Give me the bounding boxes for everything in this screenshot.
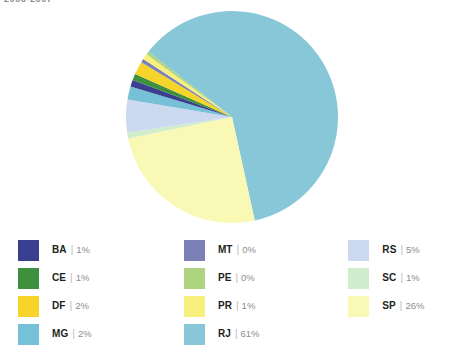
legend-code-ba: BA: [52, 244, 67, 255]
legend-percent-ce: 1%: [76, 272, 90, 283]
legend-item-mt[interactable]: MT|0%: [184, 236, 347, 264]
legend-percent-mg: 2%: [78, 328, 92, 339]
legend-percent-pe: 0%: [241, 272, 255, 283]
chart-page: 2006-2007 BA|1% CE|1% DF|2%: [0, 0, 464, 356]
legend-code-ce: CE: [52, 272, 66, 283]
legend-separator-ba: |: [71, 244, 74, 255]
legend-label-sp: SP|26%: [382, 301, 424, 311]
legend-swatch-pe: [184, 268, 205, 289]
legend-item-rs[interactable]: RS|5%: [348, 236, 464, 264]
legend-percent-rj: 61%: [240, 328, 259, 339]
legend-item-df[interactable]: DF|2%: [18, 292, 165, 320]
legend-swatch-ba: [18, 240, 39, 261]
legend-label-sc: SC|1%: [382, 273, 419, 283]
legend-item-pe[interactable]: PE|0%: [184, 264, 347, 292]
legend-separator-mg: |: [72, 328, 75, 339]
legend-code-sc: SC: [382, 272, 396, 283]
legend-label-rs: RS|5%: [382, 245, 419, 255]
legend-code-mt: MT: [218, 244, 233, 255]
legend-percent-mt: 0%: [242, 244, 256, 255]
legend-item-rj[interactable]: RJ|61%: [184, 320, 347, 348]
legend-swatch-pr: [184, 296, 205, 317]
legend-label-ce: CE|1%: [52, 273, 89, 283]
legend-percent-ba: 1%: [76, 244, 90, 255]
legend-separator-rs: |: [400, 244, 403, 255]
chart-legend: BA|1% CE|1% DF|2% MG|2%: [0, 236, 464, 356]
legend-item-sp[interactable]: SP|26%: [348, 292, 464, 320]
legend-swatch-sc: [348, 268, 369, 289]
legend-code-mg: MG: [52, 328, 68, 339]
legend-item-sc[interactable]: SC|1%: [348, 264, 464, 292]
legend-separator-pe: |: [235, 272, 238, 283]
pie-chart-area: [0, 0, 464, 232]
legend-label-df: DF|2%: [52, 301, 89, 311]
legend-code-rj: RJ: [218, 328, 231, 339]
legend-swatch-df: [18, 296, 39, 317]
legend-item-mg[interactable]: MG|2%: [18, 320, 165, 348]
legend-percent-df: 2%: [75, 300, 89, 311]
legend-separator-ce: |: [70, 272, 73, 283]
legend-percent-pr: 1%: [242, 300, 256, 311]
legend-separator-pr: |: [236, 300, 239, 311]
legend-separator-sc: |: [400, 272, 403, 283]
legend-column-1: BA|1% CE|1% DF|2% MG|2%: [0, 236, 165, 356]
legend-code-sp: SP: [382, 300, 396, 311]
legend-column-3: RS|5% SC|1% SP|26%: [347, 236, 464, 356]
legend-label-pr: PR|1%: [218, 301, 255, 311]
legend-swatch-mg: [18, 324, 39, 345]
legend-swatch-mt: [184, 240, 205, 261]
legend-percent-sp: 26%: [405, 300, 424, 311]
legend-code-rs: RS: [382, 244, 396, 255]
legend-label-ba: BA|1%: [52, 245, 90, 255]
legend-label-pe: PE|0%: [218, 273, 255, 283]
legend-label-rj: RJ|61%: [218, 329, 260, 339]
legend-label-mg: MG|2%: [52, 329, 92, 339]
legend-separator-mt: |: [237, 244, 240, 255]
legend-item-ce[interactable]: CE|1%: [18, 264, 165, 292]
pie-chart-svg: [0, 0, 464, 232]
legend-column-2: MT|0% PE|0% PR|1% RJ|61%: [165, 236, 347, 356]
legend-swatch-rs: [348, 240, 369, 261]
legend-swatch-sp: [348, 296, 369, 317]
legend-code-pe: PE: [218, 272, 232, 283]
pie-slice-group: [126, 11, 338, 223]
legend-label-mt: MT|0%: [218, 245, 256, 255]
legend-separator-df: |: [70, 300, 73, 311]
legend-separator-rj: |: [235, 328, 238, 339]
legend-swatch-ce: [18, 268, 39, 289]
legend-percent-rs: 5%: [406, 244, 420, 255]
legend-item-pr[interactable]: PR|1%: [184, 292, 347, 320]
legend-item-ba[interactable]: BA|1%: [18, 236, 165, 264]
legend-code-pr: PR: [218, 300, 232, 311]
legend-percent-sc: 1%: [406, 272, 420, 283]
legend-code-df: DF: [52, 300, 66, 311]
legend-swatch-rj: [184, 324, 205, 345]
legend-separator-sp: |: [400, 300, 403, 311]
